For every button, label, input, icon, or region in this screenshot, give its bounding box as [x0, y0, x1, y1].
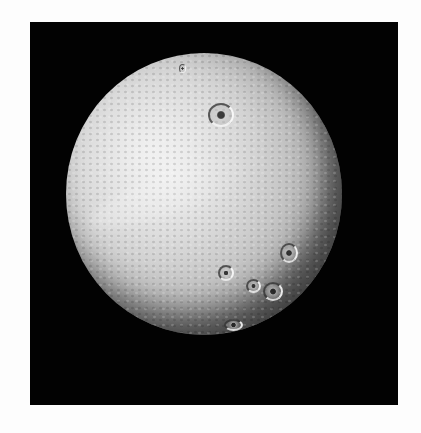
crater-lower-2	[246, 279, 261, 293]
moon	[66, 53, 342, 335]
crater-right-lower	[280, 243, 298, 263]
crater-lower-3	[263, 282, 283, 301]
crater-lower-1	[218, 265, 234, 281]
large-crater	[208, 103, 234, 127]
space-background-frame	[30, 22, 398, 405]
crater-bottom	[224, 319, 243, 331]
small-crater-top	[179, 64, 186, 73]
